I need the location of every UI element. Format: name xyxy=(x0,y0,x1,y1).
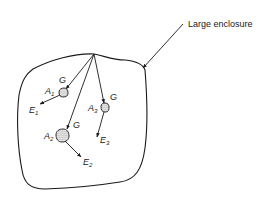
area-label-a3: A3 xyxy=(87,103,98,114)
emission-arrow-e2 xyxy=(65,141,81,157)
callout-label: Large enclosure xyxy=(188,19,253,29)
enclosure-boundary xyxy=(18,54,147,189)
emission-arrow-e3 xyxy=(97,112,104,137)
emission-arrow-e1 xyxy=(40,95,60,104)
emission-label-e3: E3 xyxy=(100,135,110,146)
area-label-a1: A1 xyxy=(44,86,54,97)
emission-label-e2: E2 xyxy=(83,157,93,168)
irradiation-label-a1: G xyxy=(59,75,66,85)
emission-label-e1: E1 xyxy=(29,105,38,116)
irradiation-arrow-a3 xyxy=(94,54,104,103)
callout-leader-arrow xyxy=(143,24,183,68)
irradiation-arrow-a2 xyxy=(67,54,94,129)
body-a1 xyxy=(59,88,68,97)
area-label-a2: A2 xyxy=(43,131,54,142)
body-a2 xyxy=(56,129,69,142)
irradiation-label-a2: G xyxy=(73,120,80,130)
enclosure-diagram: Large enclosure G G G A1 A2 A3 E1 E2 E3 xyxy=(0,0,279,201)
irradiation-arrow-a1 xyxy=(66,54,94,89)
body-a3 xyxy=(101,103,109,112)
irradiation-label-a3: G xyxy=(110,92,117,102)
